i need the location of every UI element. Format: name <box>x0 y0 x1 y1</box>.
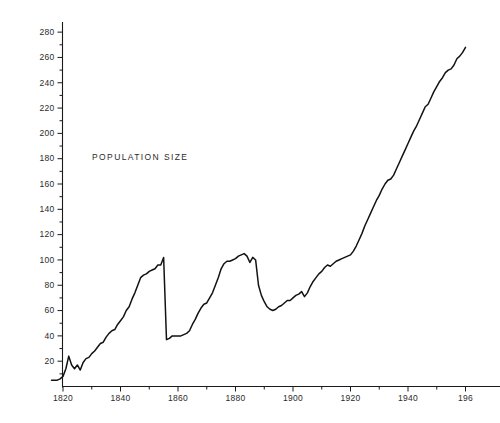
y-tick-label: 180 <box>39 153 54 163</box>
y-tick-label: 240 <box>39 78 54 88</box>
x-tick-label: 1860 <box>168 393 188 403</box>
y-tick-label: 200 <box>39 128 54 138</box>
x-tick-label: 1900 <box>283 393 303 403</box>
x-tick-label: 1920 <box>340 393 360 403</box>
y-tick-label: 140 <box>39 204 54 214</box>
y-tick-label: 40 <box>44 331 54 341</box>
y-tick-label: 20 <box>44 356 54 366</box>
y-tick-label: 220 <box>39 103 54 113</box>
chart-canvas: 20406080100120140160180200220240260280 1… <box>0 0 500 423</box>
x-tick-label: 1940 <box>398 393 418 403</box>
y-tick-label: 100 <box>39 255 54 265</box>
y-tick-label: 160 <box>39 179 54 189</box>
y-tick-label: 120 <box>39 229 54 239</box>
chart-background <box>0 0 500 423</box>
y-tick-label: 60 <box>44 305 54 315</box>
y-tick-label: 80 <box>44 280 54 290</box>
series-annotation-label: POPULATION SIZE <box>92 152 188 162</box>
population-size-chart: 20406080100120140160180200220240260280 1… <box>0 0 500 423</box>
x-tick-label: 196 <box>458 393 473 403</box>
y-tick-label: 280 <box>39 27 54 37</box>
y-tick-label: 260 <box>39 52 54 62</box>
x-tick-label: 1840 <box>110 393 130 403</box>
x-tick-label: 1880 <box>225 393 245 403</box>
x-tick-label: 1820 <box>53 393 73 403</box>
